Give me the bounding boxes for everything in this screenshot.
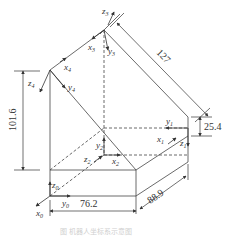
label-y3: y3 (107, 46, 115, 57)
dimension-width: 76.2 (80, 198, 98, 209)
label-z0: z0 (51, 180, 59, 191)
coordinate-frame-diagram: 101.6 127 25.4 88.9 76.2 z3 x3 y3 x4 z4 … (0, 0, 231, 238)
label-x2: x2 (111, 156, 119, 167)
diagram-canvas: 101.6 127 25.4 88.9 76.2 z3 x3 y3 x4 z4 … (0, 0, 231, 238)
dimension-lines (14, 13, 212, 216)
label-x0: x0 (35, 208, 43, 219)
label-z1: z1 (179, 138, 187, 149)
axis-labels: z3 x3 y3 x4 z4 y4 y1 x1 z1 y2 z2 x2 z0 y… (27, 6, 187, 219)
label-z4: z4 (27, 78, 35, 89)
figure-caption: 图 机器人坐标系示意图 (60, 227, 132, 236)
label-z3: z3 (101, 6, 109, 17)
dimension-height-total: 101.6 (7, 109, 18, 132)
solid-edges (50, 14, 188, 196)
label-y0: y0 (61, 198, 69, 209)
label-x4: x4 (63, 62, 71, 73)
dimension-slope-length: 127 (155, 47, 173, 65)
dimension-depth: 88.9 (145, 187, 166, 206)
label-y4: y4 (67, 82, 75, 93)
label-x1: x1 (156, 134, 164, 145)
dimension-box-height: 25.4 (204, 121, 222, 132)
label-z2: z2 (83, 154, 91, 165)
label-y2: y2 (95, 140, 103, 151)
label-x3: x3 (87, 42, 95, 53)
label-y1: y1 (165, 116, 173, 127)
